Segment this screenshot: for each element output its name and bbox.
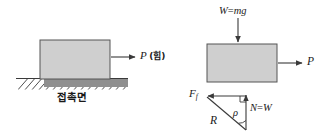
- normal-symbol: N: [250, 102, 257, 113]
- ground-strip: [44, 79, 128, 88]
- contact-surface-label: 접촉면: [57, 92, 87, 103]
- left-block: [40, 40, 110, 79]
- diagram-canvas: [0, 0, 329, 138]
- normal-force-label: N=W: [250, 103, 272, 114]
- friction-symbol: F: [189, 87, 196, 99]
- weight-label: W=mg: [219, 6, 247, 17]
- friction-diagram-figure: P (힘) 접촉면 W=mg P Ff N=W R ρ: [0, 0, 329, 138]
- normal-value: W: [263, 102, 272, 113]
- friction-angle-arc: [239, 121, 246, 124]
- friction-force-label: Ff: [189, 88, 198, 100]
- friction-angle-label: ρ: [233, 108, 238, 119]
- right-block: [207, 44, 277, 82]
- left-force-symbol: P: [140, 49, 147, 61]
- right-applied-force-label: P: [307, 56, 314, 68]
- friction-subscript: f: [196, 92, 198, 101]
- weight-expression: mg: [234, 5, 247, 16]
- resultant-force-label: R: [210, 115, 217, 127]
- weight-symbol: W: [219, 5, 228, 16]
- left-applied-force-label: P (힘): [140, 50, 165, 61]
- left-force-annotation: (힘): [149, 51, 165, 61]
- right-angle-mark: [240, 96, 246, 102]
